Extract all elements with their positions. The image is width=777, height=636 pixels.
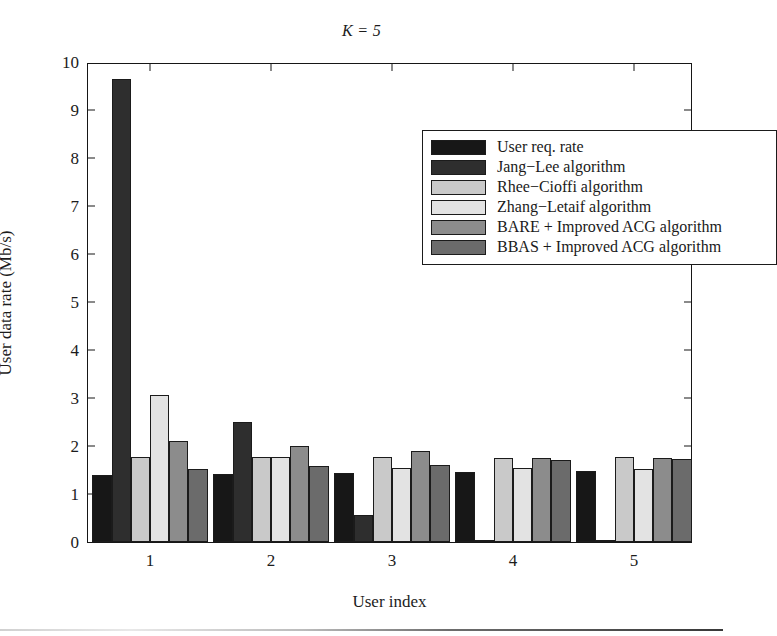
legend-swatch xyxy=(431,160,486,175)
chart-title: K = 5 xyxy=(0,22,723,40)
y-tick-label: 10 xyxy=(62,54,79,71)
x-tick-label: 4 xyxy=(509,551,518,571)
bar xyxy=(576,471,595,542)
scan-artifact-line xyxy=(0,629,723,631)
x-axis-label: User index xyxy=(87,592,692,612)
bar xyxy=(596,540,615,542)
legend-swatch xyxy=(431,200,486,215)
plot-area: 012345678910 12345 User req. rateJang−Le… xyxy=(87,63,692,543)
y-axis-label: User data rate (Mb/s) xyxy=(0,231,16,376)
bar xyxy=(615,457,634,542)
legend-label: User req. rate xyxy=(497,139,584,155)
legend-swatch xyxy=(431,240,486,255)
y-tick-label: 3 xyxy=(71,390,80,407)
y-tick-label: 2 xyxy=(71,438,80,455)
bar xyxy=(653,458,672,542)
legend-item: User req. rate xyxy=(431,137,768,157)
legend-item: Zhang−Letaif algorithm xyxy=(431,197,768,217)
legend-item: BBAS + Improved ACG algorithm xyxy=(431,237,768,257)
y-tick-label: 8 xyxy=(71,150,80,167)
y-tick-label: 1 xyxy=(71,486,80,503)
y-tick-label: 5 xyxy=(71,294,80,311)
x-tick-label: 3 xyxy=(388,551,397,571)
legend-label: Rhee−Cioffi algorithm xyxy=(497,179,643,195)
y-tick-label: 4 xyxy=(71,342,80,359)
x-tick-label: 2 xyxy=(267,551,276,571)
scan-artifact-edge xyxy=(720,0,723,636)
legend-item: BARE + Improved ACG algorithm xyxy=(431,217,768,237)
y-tick-label: 0 xyxy=(71,534,80,551)
bar xyxy=(634,469,653,542)
y-tick-label: 7 xyxy=(71,198,80,215)
chart-legend: User req. rateJang−Lee algorithmRhee−Cio… xyxy=(422,130,777,265)
legend-swatch xyxy=(431,180,486,195)
legend-label: Jang−Lee algorithm xyxy=(497,159,626,175)
legend-swatch xyxy=(431,220,486,235)
y-tick-label: 6 xyxy=(71,246,80,263)
x-tick-label: 5 xyxy=(630,551,639,571)
legend-swatch xyxy=(431,140,486,155)
y-tick-label: 9 xyxy=(71,102,80,119)
legend-item: Rhee−Cioffi algorithm xyxy=(431,177,768,197)
legend-label: Zhang−Letaif algorithm xyxy=(497,199,651,215)
legend-label: BBAS + Improved ACG algorithm xyxy=(497,239,721,255)
legend-item: Jang−Lee algorithm xyxy=(431,157,768,177)
bar xyxy=(672,459,691,542)
x-tick-label: 1 xyxy=(146,551,155,571)
legend-label: BARE + Improved ACG algorithm xyxy=(497,219,722,235)
